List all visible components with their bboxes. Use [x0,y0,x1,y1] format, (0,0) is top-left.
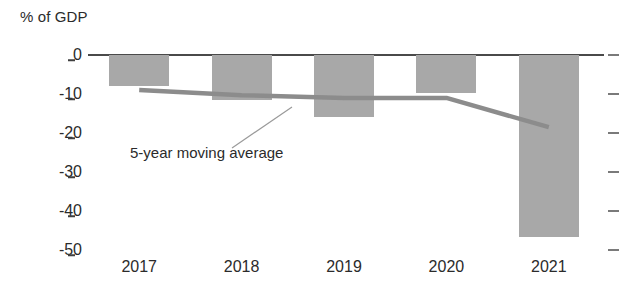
y-tick-mark [68,176,75,178]
right-axis-tick [608,132,619,134]
right-axis-tick [608,54,619,56]
gdp-deficit-bar-chart: % of GDP 0-10-20-30-40-50 5-year moving … [0,0,642,303]
y-tick-mark [68,137,75,139]
right-axis-tick [608,171,619,173]
x-tick-label: 2018 [224,258,260,276]
y-tick-mark [68,59,75,61]
moving-average-annotation: 5-year moving average [130,144,283,161]
y-tick-mark [68,98,75,100]
x-tick-label: 2017 [121,258,157,276]
bar-2018 [212,55,272,100]
x-tick-label: 2021 [531,258,567,276]
bar-2021 [519,55,579,237]
y-tick-mark [68,254,75,256]
right-axis-tick [608,93,619,95]
x-tick-label: 2020 [429,258,465,276]
right-axis-tick [608,210,619,212]
x-tick-label: 2019 [326,258,362,276]
y-tick-mark [68,215,75,217]
right-axis-tick [608,249,619,251]
y-tick-label: -10 [20,85,82,103]
y-axis-labels: 0-10-20-30-40-50 [0,0,82,303]
bar-2020 [416,55,476,93]
y-tick-label: -50 [20,241,82,259]
annotation-leader-line [232,107,292,148]
y-tick-label: 0 [20,46,82,64]
y-tick-label: -30 [20,163,82,181]
y-tick-label: -20 [20,124,82,142]
bar-2019 [314,55,374,117]
y-tick-label: -40 [20,202,82,220]
bar-2017 [109,55,169,86]
